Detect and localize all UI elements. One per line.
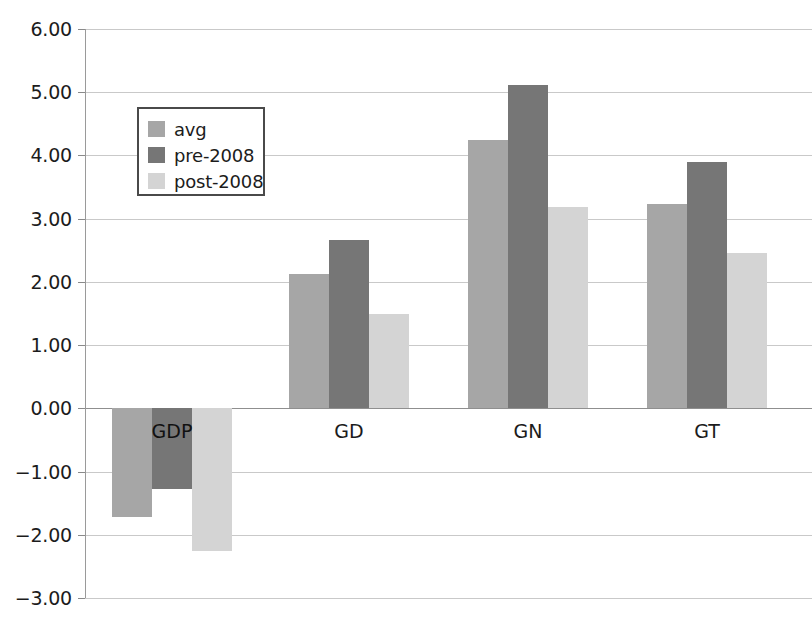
- y-axis-tick-label: −3.00: [0, 587, 72, 609]
- bar-gd-pre-2008: [329, 240, 369, 409]
- category-label-gn: GN: [514, 420, 543, 442]
- gridline: [85, 29, 812, 30]
- bar-gd-post-2008: [369, 314, 409, 409]
- legend-item-post-2008: post-2008: [148, 168, 263, 194]
- bar-gt-pre-2008: [687, 162, 727, 408]
- bar-gdp-avg: [112, 408, 152, 517]
- y-axis-tick: [78, 472, 85, 473]
- gridline: [85, 598, 812, 599]
- bar-gdp-post-2008: [192, 408, 232, 551]
- y-axis-tick-label: −2.00: [0, 524, 72, 546]
- chart-legend: avgpre-2008post-2008: [137, 107, 265, 196]
- y-axis-tick-label: −1.00: [0, 461, 72, 483]
- y-axis-tick: [78, 535, 85, 536]
- y-axis-tick: [78, 408, 85, 409]
- y-axis-tick-label: 0.00: [0, 397, 72, 419]
- y-axis-tick-label: 5.00: [0, 81, 72, 103]
- legend-label: post-2008: [174, 171, 263, 192]
- bar-gt-avg: [647, 204, 687, 408]
- y-axis-labels: 6.005.004.003.002.001.000.00−1.00−2.00−3…: [0, 0, 78, 631]
- category-label-gt: GT: [694, 420, 720, 442]
- bar-gt-post-2008: [727, 253, 767, 408]
- legend-swatch-icon: [148, 121, 165, 137]
- bar-gn-avg: [468, 140, 508, 409]
- bar-chart: 6.005.004.003.002.001.000.00−1.00−2.00−3…: [0, 0, 812, 631]
- legend-item-avg: avg: [148, 116, 263, 142]
- gridline: [85, 92, 812, 93]
- category-label-gd: GD: [334, 420, 363, 442]
- category-label-gdp: GDP: [152, 420, 193, 442]
- y-axis-tick-label: 4.00: [0, 144, 72, 166]
- legend-label: avg: [174, 119, 207, 140]
- y-axis-tick: [78, 92, 85, 93]
- legend-swatch-icon: [148, 147, 165, 163]
- y-axis-line: [85, 29, 86, 598]
- legend-label: pre-2008: [174, 145, 254, 166]
- y-axis-tick-label: 2.00: [0, 271, 72, 293]
- y-axis-tick: [78, 29, 85, 30]
- legend-item-pre-2008: pre-2008: [148, 142, 263, 168]
- legend-swatch-icon: [148, 173, 165, 189]
- y-axis-tick: [78, 219, 85, 220]
- bar-gd-avg: [289, 274, 329, 408]
- y-axis-tick: [78, 155, 85, 156]
- y-axis-tick: [78, 598, 85, 599]
- bar-gn-post-2008: [548, 207, 588, 408]
- bar-gn-pre-2008: [508, 85, 548, 409]
- y-axis-tick: [78, 282, 85, 283]
- y-axis-tick-label: 3.00: [0, 208, 72, 230]
- y-axis-tick: [78, 345, 85, 346]
- y-axis-tick-label: 1.00: [0, 334, 72, 356]
- y-axis-tick-label: 6.00: [0, 18, 72, 40]
